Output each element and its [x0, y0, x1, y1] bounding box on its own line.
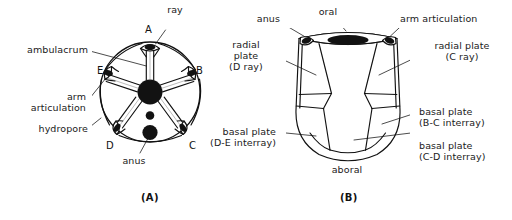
ray-letter-c: C — [189, 140, 196, 151]
label-radial-d-line2: plate — [234, 50, 259, 61]
anus-dot — [142, 125, 157, 140]
label-basal-cd-line1: basal plate — [419, 140, 472, 151]
label-radial-c-line1: radial plate — [434, 40, 489, 51]
leader-arm-articulation-b — [391, 28, 407, 36]
label-basal-plate-de: basal plate (D-E interray) — [206, 126, 276, 148]
caption-panel-a: (A) — [141, 192, 159, 203]
leader-ray — [156, 30, 166, 44]
label-arm-articulation-a-line2: articulation — [31, 102, 86, 113]
leader-hydropore — [92, 118, 101, 129]
label-basal-plate-bc: basal plate (B-C interray) — [419, 106, 485, 128]
label-basal-de-line2: (D-E interray) — [210, 137, 276, 148]
label-arm-articulation-a: arm articulation — [2, 91, 86, 113]
label-ambulacrum: ambulacrum — [6, 44, 88, 55]
label-basal-cd-line2: (C-D interray) — [419, 151, 486, 162]
label-oral: oral — [311, 6, 345, 17]
caption-panel-b: (B) — [340, 192, 358, 203]
calyx-outline — [296, 33, 400, 161]
label-anus-b: anus — [230, 13, 280, 24]
label-basal-plate-cd: basal plate (C-D interray) — [419, 140, 486, 162]
label-ray: ray — [160, 4, 190, 15]
leader-oral — [336, 28, 346, 31]
label-radial-c-line2: (C ray) — [445, 51, 478, 62]
panel-b-drawing — [286, 28, 410, 178]
ray-letter-b: B — [196, 65, 203, 76]
hydropore-dot — [146, 111, 155, 120]
label-basal-de-line1: basal plate — [223, 126, 276, 137]
ray-letter-a: A — [145, 24, 152, 35]
label-anus-a: anus — [114, 155, 154, 166]
figure-root: ray ambulacrum arm articulation hydropor… — [0, 0, 512, 220]
label-radial-d-line3: (D ray) — [229, 61, 263, 72]
label-hydropore: hydropore — [6, 123, 88, 134]
oral-opening — [328, 35, 369, 45]
label-arm-articulation-a-line1: arm — [67, 91, 86, 102]
label-basal-bc-line2: (B-C interray) — [419, 117, 485, 128]
leader-anus-b — [286, 28, 305, 37]
ray-letter-d: D — [106, 140, 114, 151]
label-radial-plate-d-ray: radial plate (D ray) — [216, 39, 276, 72]
ray-letter-e: E — [97, 65, 103, 76]
central-disc — [138, 80, 163, 105]
label-basal-bc-line1: basal plate — [419, 106, 472, 117]
label-aboral: aboral — [325, 164, 369, 175]
label-arm-articulation-b: arm articulation — [400, 13, 477, 24]
label-radial-d-line1: radial — [232, 39, 259, 50]
label-radial-plate-c-ray: radial plate (C ray) — [420, 40, 504, 62]
